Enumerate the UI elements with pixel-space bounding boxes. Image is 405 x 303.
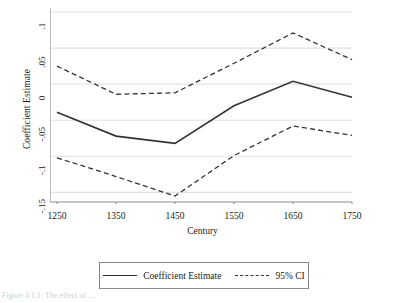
x-tick-label-5: 1750 [343, 211, 362, 221]
series-line-0 [57, 81, 352, 143]
y-tick-label-1: .05 [37, 47, 47, 77]
y-tick-label-2: 0 [37, 83, 47, 113]
x-tick-label-1: 1350 [107, 211, 126, 221]
y-tick-label-4: -.1 [37, 155, 47, 185]
x-tick-label-0: 1250 [48, 211, 67, 221]
line-chart-svg [50, 8, 354, 204]
legend-item-confidence-interval: 95% CI [235, 271, 304, 281]
x-tick-label-4: 1650 [284, 211, 303, 221]
x-axis-title: Century [0, 226, 405, 236]
series-line-2 [57, 126, 352, 196]
figure-container: Coefficient Estimate .1.050-.05-.1-.15 1… [0, 0, 405, 303]
legend-item-coefficient-estimate: Coefficient Estimate [103, 271, 221, 281]
y-tick-label-0: .1 [37, 11, 47, 41]
legend-label-confidence-interval: 95% CI [275, 271, 304, 281]
legend-dashed-line-swatch [235, 275, 269, 276]
x-tick-label-3: 1550 [225, 211, 244, 221]
chart-legend: Coefficient Estimate 95% CI [99, 262, 309, 289]
figure-caption-partial: Figure 4.1.1: The effect of ... [2, 291, 192, 302]
legend-label-coefficient-estimate: Coefficient Estimate [143, 271, 221, 281]
y-tick-label-3: -.05 [37, 119, 47, 149]
plot-area [50, 8, 354, 204]
legend-solid-line-swatch [103, 275, 137, 276]
y-axis-title: Coefficient Estimate [22, 29, 32, 189]
x-tick-label-2: 1450 [166, 211, 185, 221]
y-tick-label-5: -.15 [37, 191, 47, 221]
